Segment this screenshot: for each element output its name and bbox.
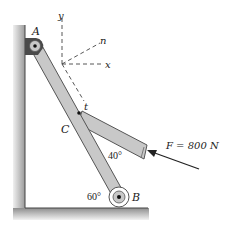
point-C-dot (77, 111, 81, 115)
label-t: t (84, 101, 89, 112)
n-axis (62, 43, 100, 64)
coordinate-axes (62, 16, 104, 101)
floor (13, 208, 149, 220)
label-C: C (61, 123, 70, 136)
wall (13, 25, 25, 211)
roller-B (109, 187, 129, 207)
diagram-canvas: A y n x t C 40° 60° B F = 800 N (0, 0, 226, 229)
label-x: x (105, 59, 111, 70)
label-force: F = 800 N (165, 140, 220, 151)
label-angle-60: 60° (87, 191, 101, 202)
label-B: B (131, 191, 140, 204)
label-n: n (100, 35, 106, 46)
force-arrow (147, 150, 199, 169)
label-A: A (31, 25, 40, 38)
label-angle-40: 40° (108, 150, 122, 161)
label-y: y (57, 10, 64, 21)
